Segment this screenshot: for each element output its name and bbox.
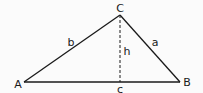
side-label-a: a xyxy=(152,36,159,49)
vertex-label-a: A xyxy=(14,78,22,91)
vertex-label-b: B xyxy=(183,76,191,89)
triangle-diagram: C A B b a h c xyxy=(0,0,203,93)
altitude-label-h: h xyxy=(124,45,131,58)
side-label-b: b xyxy=(68,36,75,49)
side-label-c: c xyxy=(117,83,123,93)
vertex-label-c: C xyxy=(116,2,124,15)
